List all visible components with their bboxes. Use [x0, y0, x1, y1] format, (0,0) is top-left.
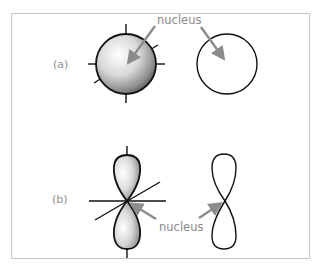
- panel-a-label: (a): [53, 58, 68, 71]
- orbital-diagram: (a) nucleus (b): [0, 0, 320, 268]
- nucleus-label-a: nucleus: [157, 13, 201, 27]
- panel-b-label: (b): [52, 193, 68, 206]
- nucleus-label-b: nucleus: [159, 220, 203, 234]
